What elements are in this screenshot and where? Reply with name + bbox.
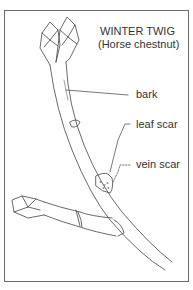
terminal-bud-left [40,22,60,65]
label-bark: bark [136,88,157,100]
side-branch-top-edge [44,202,112,218]
label-vein-scar: vein scar [136,158,180,170]
label-leaf-scar: leaf scar [136,118,178,130]
twig-illustration [0,0,193,290]
leaf-scar-mark [70,120,80,127]
side-branch-node [114,220,124,236]
bark-leader-line [66,90,128,95]
vein-scar-leader-line [113,165,130,182]
